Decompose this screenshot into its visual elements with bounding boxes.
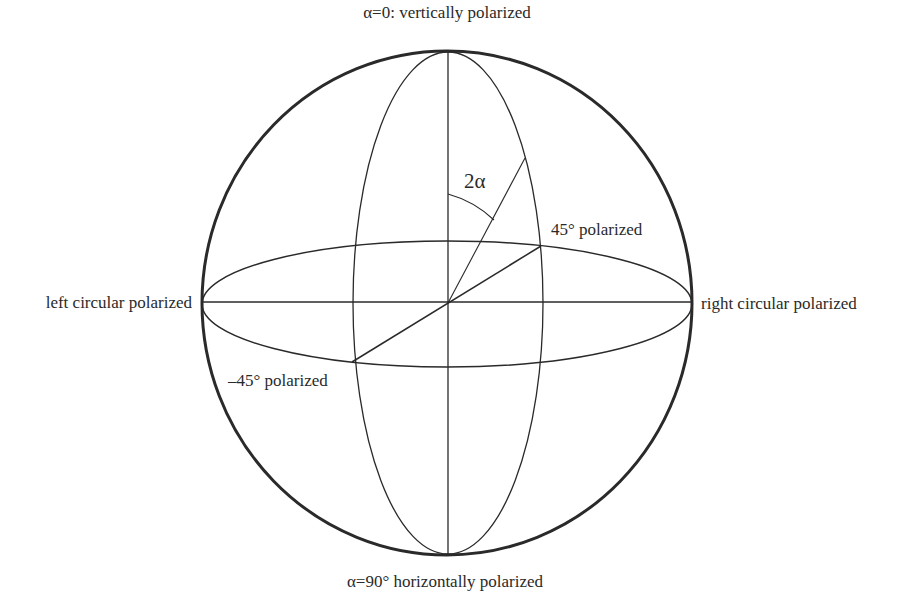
label-minus45: –45° polarized <box>227 371 328 390</box>
diagonal-axis <box>352 246 541 362</box>
label-left: left circular polarized <box>46 293 193 312</box>
poincare-sphere-diagram: α=0: vertically polarized α=90° horizont… <box>0 0 903 609</box>
angle-arc <box>448 194 494 220</box>
label-bottom: α=90° horizontally polarized <box>347 572 544 591</box>
label-plus45: 45° polarized <box>551 220 643 239</box>
label-angle: 2α <box>464 169 486 193</box>
polarization-vector <box>448 158 525 303</box>
label-top: α=0: vertically polarized <box>363 3 531 22</box>
label-right: right circular polarized <box>701 294 857 313</box>
